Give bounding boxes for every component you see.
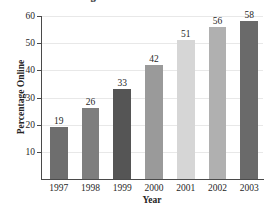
bar-value-label: 19: [54, 116, 64, 126]
bar-group: 331999: [113, 16, 131, 179]
bar-group: 512001: [177, 16, 195, 179]
y-tick-label: 30: [26, 92, 36, 102]
bar-group: 191997: [50, 16, 68, 179]
y-tick-label: 40: [26, 65, 36, 75]
bar-value-label: 26: [86, 97, 96, 107]
x-tick-label: 2002: [208, 183, 227, 193]
bar: [113, 89, 131, 179]
x-tick-label: 2003: [240, 183, 259, 193]
bar-value-label: 51: [181, 29, 191, 39]
x-tick-label: 1998: [81, 183, 100, 193]
x-tick-label: 2000: [144, 183, 163, 193]
bar-value-label: 42: [149, 54, 159, 64]
bar: [50, 127, 68, 179]
chart-title: Percentage of US Households Online: [0, 0, 268, 3]
bar: [82, 108, 100, 179]
bar-group: 261998: [82, 16, 100, 179]
bar: [145, 65, 163, 179]
x-tick-label: 2001: [176, 183, 195, 193]
x-axis-line: [41, 179, 264, 180]
x-tick-label: 1999: [113, 183, 132, 193]
y-tick-label: 20: [26, 119, 36, 129]
bar: [240, 21, 258, 179]
bar-value-label: 33: [118, 78, 128, 88]
bar-value-label: 56: [213, 16, 223, 26]
bar: [177, 40, 195, 179]
y-tick-label: 10: [26, 147, 36, 157]
y-tick-label: 50: [26, 38, 36, 48]
y-axis-title: Percentage Online: [16, 32, 26, 162]
bar-chart-figure: Percentage of US Households Online Perce…: [0, 0, 268, 213]
plot-area: 102030405060 191997261998331999422000512…: [41, 16, 263, 179]
x-axis-title: Year: [41, 195, 263, 205]
bar-group: 582003: [240, 16, 258, 179]
bar-value-label: 58: [244, 10, 254, 20]
y-axis-line: [41, 16, 42, 179]
bar-group: 562002: [209, 16, 227, 179]
bar-group: 422000: [145, 16, 163, 179]
y-tick-label: 60: [26, 11, 36, 21]
x-tick-label: 1997: [49, 183, 68, 193]
bar: [209, 27, 227, 179]
